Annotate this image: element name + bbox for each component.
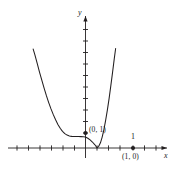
point-label-1-0: (1, 0) bbox=[122, 153, 139, 161]
x-axis bbox=[8, 145, 167, 150]
x-axis-arrow-icon bbox=[162, 146, 168, 150]
tick-label-one: 1 bbox=[131, 133, 135, 141]
y-axis-label: y bbox=[78, 9, 82, 17]
point-marker-x-intercept bbox=[131, 146, 135, 150]
point-label-0-1: (0, 1) bbox=[89, 126, 106, 134]
point-marker-y-intercept bbox=[83, 131, 87, 135]
graph-figure: y x (0, 1) (1, 0) 1 bbox=[0, 0, 174, 171]
y-axis-arrow-icon bbox=[83, 16, 87, 22]
x-axis-label: x bbox=[164, 152, 168, 160]
graph-canvas bbox=[0, 0, 174, 171]
